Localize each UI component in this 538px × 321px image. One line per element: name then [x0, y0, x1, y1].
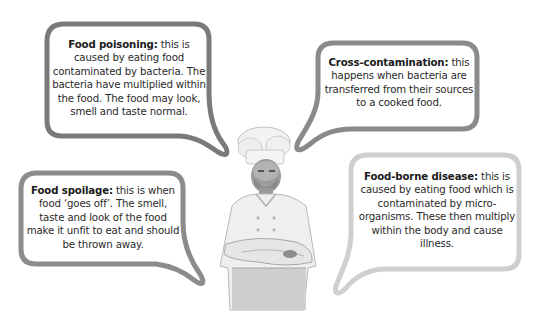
definition-food-poisoning: Food poisoning: this is caused by eating…	[52, 38, 206, 118]
term-food-spoilage: Food spoilage:	[31, 185, 113, 196]
term-cross-contamination: Cross-contamination:	[329, 57, 449, 68]
definition-food-borne-disease: Food-borne disease: this is caused by ea…	[358, 170, 516, 250]
definition-text: this is caused by eating food contaminat…	[52, 39, 206, 117]
definition-cross-contamination: Cross-contamination: this happens when b…	[324, 56, 474, 110]
chef-hat-icon	[238, 127, 290, 164]
chef-image	[218, 126, 322, 312]
definition-food-spoilage: Food spoilage: this is when food ‘goes o…	[26, 184, 180, 251]
term-food-borne-disease: Food-borne disease:	[364, 171, 478, 182]
definition-text: this is caused by eating food which is c…	[359, 171, 515, 249]
term-food-poisoning: Food poisoning:	[68, 39, 157, 50]
